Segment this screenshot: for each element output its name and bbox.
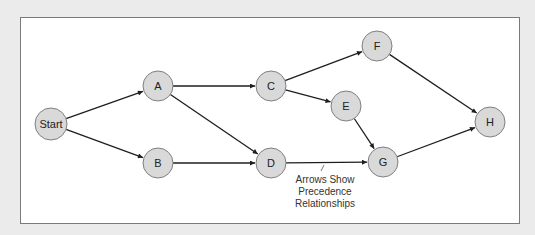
edge-C-to-F [285,52,362,81]
node-A: A [143,71,173,101]
node-E: E [331,91,361,121]
edges-group [66,52,477,163]
node-F: F [362,31,392,61]
node-label: B [154,157,161,169]
precedence-network: StartABCDEFGH [0,0,535,235]
node-label: G [379,156,388,168]
node-start: Start [35,108,67,140]
edge-E-to-G [354,119,374,149]
node-label: Start [39,118,62,130]
annotation-line-3: Relationships [280,198,370,210]
node-label: F [374,40,381,52]
annotation-leader-line [321,165,324,171]
edge-D-to-G [286,162,367,163]
edge-G-to-H [397,128,475,157]
node-C: C [256,71,286,101]
edge-F-to-H [389,54,476,113]
node-label: A [154,80,162,92]
edge-C-to-E [285,90,330,102]
node-label: H [486,116,494,128]
annotation-line-1: Arrows Show [280,174,370,186]
node-label: C [267,80,275,92]
edge-start-to-A [66,91,143,118]
node-G: G [368,147,398,177]
node-B: B [143,148,173,178]
node-label: E [342,100,349,112]
node-H: H [475,107,505,137]
edge-A-to-D [170,94,257,154]
annotation-text: Arrows Show Precedence Relationships [280,174,370,210]
edge-start-to-B [66,129,143,157]
annotation-line-2: Precedence [280,186,370,198]
node-label: D [267,157,275,169]
